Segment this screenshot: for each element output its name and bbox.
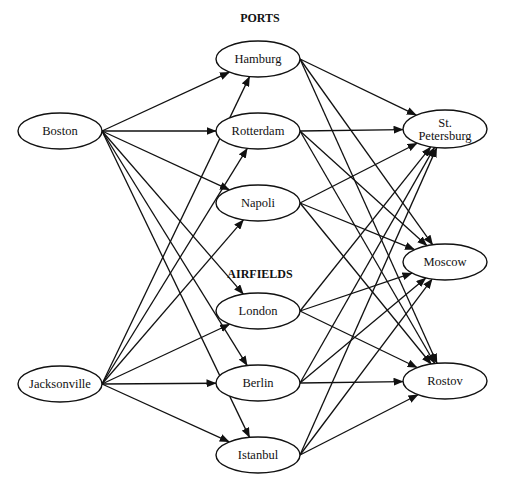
node-label: Petersburg [418, 129, 472, 143]
node-jacksonville: Jacksonville [18, 366, 102, 402]
edge-berlin-to-rostov [300, 382, 403, 383]
edge-london-to-rostov [300, 311, 417, 368]
node-boston: Boston [18, 113, 102, 149]
edge-london-to-moscow [300, 273, 412, 311]
node-label: Rotterdam [232, 124, 285, 138]
ports-group-label: PORTS [240, 11, 280, 25]
node-berlin: Berlin [216, 365, 300, 401]
edge-berlin-to-moscow [300, 278, 426, 383]
edge-rotterdam-to-rostov [300, 131, 435, 364]
edge-hamburg-to-st_petersburg [300, 59, 416, 115]
network-diagram: BostonJacksonvilleHamburgRotterdamNapoli… [0, 0, 506, 488]
node-label: Jacksonville [29, 377, 91, 391]
edge-napoli-to-rostov [300, 203, 431, 364]
node-label: Napoli [241, 196, 276, 210]
edge-jacksonville-to-berlin [102, 383, 216, 384]
node-label: Boston [42, 124, 78, 138]
node-istanbul: Istanbul [216, 437, 300, 473]
node-napoli: Napoli [216, 185, 300, 221]
edge-boston-to-berlin [102, 131, 247, 366]
node-st-petersburg: St.Petersburg [403, 110, 487, 148]
node-label: Berlin [242, 376, 274, 390]
edge-boston-to-napoli [102, 131, 229, 190]
node-rostov: Rostov [403, 363, 487, 399]
nodes: BostonJacksonvilleHamburgRotterdamNapoli… [18, 41, 487, 473]
node-label: Hamburg [235, 52, 283, 66]
node-label: London [239, 304, 279, 318]
airfields-group-label: AIRFIELDS [227, 267, 293, 281]
edge-jacksonville-to-rotterdam [102, 148, 247, 384]
edge-boston-to-hamburg [102, 72, 229, 131]
node-label: Rostov [427, 374, 463, 388]
node-label: St. [438, 116, 452, 130]
edge-napoli-to-moscow [300, 203, 415, 250]
node-hamburg: Hamburg [216, 41, 300, 77]
node-moscow: Moscow [403, 244, 487, 280]
edge-rotterdam-to-st_petersburg [300, 130, 403, 131]
edge-hamburg-to-moscow [300, 59, 433, 245]
edge-london-to-st_petersburg [300, 147, 431, 311]
edge-istanbul-to-rostov [300, 395, 418, 455]
edge-jacksonville-to-istanbul [102, 384, 229, 442]
node-rotterdam: Rotterdam [216, 113, 300, 149]
node-london: London [216, 293, 300, 329]
node-label: Istanbul [238, 448, 279, 462]
node-label: Moscow [423, 255, 466, 269]
edge-napoli-to-st_petersburg [300, 143, 417, 203]
